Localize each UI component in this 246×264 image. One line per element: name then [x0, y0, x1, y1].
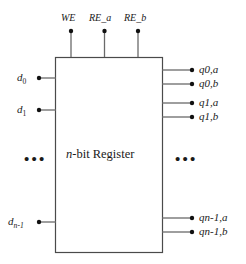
input-label-d0: d0	[17, 72, 26, 83]
input-label-dn-1-sub: n-1	[14, 221, 24, 230]
data-input-dots	[37, 76, 41, 224]
output-label-q0a-sub: 0,a	[205, 63, 219, 75]
output-label-qn-1a: qn-1,a	[199, 212, 227, 223]
control-label-we: WE	[61, 13, 75, 23]
input-label-d1-base: d	[17, 103, 23, 115]
ellipsis-left: •••	[24, 152, 46, 167]
output-label-q1b: q1,b	[199, 111, 218, 122]
output-label-q0b: q0,b	[199, 78, 218, 89]
output-label-q0a: q0,a	[199, 64, 218, 75]
output-label-q1b-sub: 1,b	[205, 110, 219, 122]
output-label-q1a-sub: 1,a	[205, 96, 219, 108]
output-label-qn-1b-sub: n-1,b	[205, 225, 228, 237]
data-input-lines	[39, 78, 56, 222]
control-input-lines	[71, 31, 138, 57]
input-label-dn-1-base: d	[8, 215, 14, 227]
ellipsis-right: •••	[175, 152, 197, 167]
output-label-q0b-sub: 0,b	[205, 77, 219, 89]
register-block-diagram: WE RE_a RE_b d0 d1 dn-1 q0,a q0,b q1,a q…	[0, 0, 246, 264]
input-label-dn-1: dn-1	[8, 216, 24, 227]
input-label-d0-base: d	[17, 71, 23, 83]
block-label: n-bit Register	[66, 148, 134, 161]
input-label-d1-sub: 1	[23, 109, 27, 118]
control-input-dots	[69, 29, 140, 33]
block-label-rest: -bit Register	[72, 147, 134, 161]
input-label-d0-sub: 0	[23, 77, 27, 86]
control-label-re-a: RE_a	[89, 13, 111, 23]
output-label-qn-1b: qn-1,b	[199, 226, 227, 237]
output-label-q1a: q1,a	[199, 97, 218, 108]
output-label-qn-1a-sub: n-1,a	[205, 211, 228, 223]
control-label-re-b: RE_b	[124, 13, 146, 23]
input-label-d1: d1	[17, 104, 26, 115]
